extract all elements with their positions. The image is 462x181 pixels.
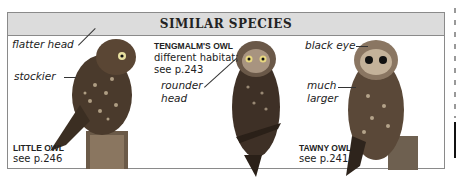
- page-ref-little-owl: see p.246: [13, 153, 62, 165]
- annotation-much: much: [307, 79, 336, 91]
- species-name-tawny-owl: TAWNY OWL: [299, 143, 351, 153]
- page-ref-tawny-owl: see p.241: [299, 153, 348, 165]
- panel-header: SIMILAR SPECIES: [8, 13, 444, 36]
- page-edge-text-fragment: [454, 8, 456, 118]
- leader-line: [64, 77, 76, 78]
- similar-species-panel: SIMILAR SPECIES flatter head stockier LI…: [7, 12, 445, 169]
- annotation-black-eye: black eye: [305, 39, 355, 51]
- annotation-stockier: stockier: [14, 70, 56, 82]
- page-ref-tengmalms-owl: see p.243: [154, 64, 203, 76]
- habitat-note-tengmalms-owl: different habitat;: [154, 52, 239, 64]
- panel-title: SIMILAR SPECIES: [160, 17, 292, 31]
- leader-line: [356, 46, 368, 47]
- leader-line: [338, 87, 356, 88]
- annotation-flatter-head: flatter head: [12, 38, 74, 50]
- annotation-larger: larger: [307, 92, 338, 104]
- annotation-head: head: [161, 92, 187, 104]
- page-edge-bar: [454, 122, 456, 158]
- annotation-rounder: rounder: [161, 79, 203, 91]
- tawny-owl-illustration: [338, 36, 423, 181]
- species-name-tengmalms-owl: TENGMALM'S OWL: [154, 41, 233, 51]
- species-name-little-owl: LITTLE OWL: [13, 143, 64, 153]
